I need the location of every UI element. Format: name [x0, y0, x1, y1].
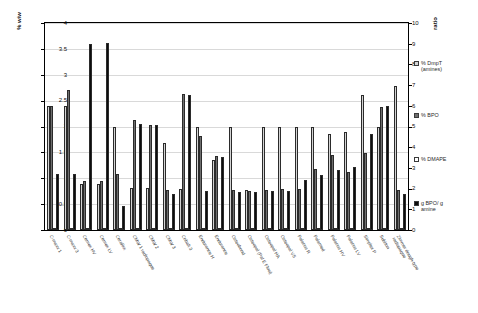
x-tick-label: Cerafixx — [115, 234, 128, 251]
bar-series-area — [45, 23, 408, 230]
bar — [265, 190, 268, 230]
bar — [199, 136, 202, 230]
y-tick-mark-right — [409, 64, 412, 65]
bar-group — [111, 23, 128, 230]
open-square-icon — [414, 157, 419, 162]
y-tick-mark-right — [409, 23, 412, 24]
legend-item[interactable]: % DmpT (amines) — [414, 60, 442, 72]
bar — [133, 120, 136, 230]
x-label-slot: Palacos HV — [326, 232, 343, 313]
bar — [50, 106, 53, 230]
bar — [347, 172, 350, 230]
y-tick-mark-right — [409, 189, 412, 190]
y-tick-mark-left — [41, 101, 44, 102]
bar-group — [359, 23, 376, 230]
bar — [100, 181, 103, 230]
y-tick-mark-right — [409, 44, 412, 45]
x-label-slot: Endurance — [210, 232, 227, 313]
x-label-slot: Cerafixx — [111, 232, 128, 313]
x-tick-label: Palamed — [313, 234, 327, 252]
y-tick-label-right: 7 — [412, 82, 438, 88]
bar — [337, 170, 340, 230]
bar — [205, 191, 208, 230]
x-tick-label: Cobalt 3 — [181, 234, 194, 251]
y-tick-mark-left — [41, 230, 44, 231]
x-label-slot: C-maxx 1 — [45, 232, 62, 313]
bar-group — [210, 23, 227, 230]
y-tick-mark-left — [41, 178, 44, 179]
x-tick-label: Zimmer dough-type radiopaque — [391, 234, 423, 279]
bar — [166, 190, 169, 230]
bar-group — [392, 23, 409, 230]
x-label-slot: CMW 2 — [144, 232, 161, 313]
bar — [215, 156, 218, 230]
x-label-slot: Cemex LV — [95, 232, 112, 313]
bar-group — [128, 23, 145, 230]
bar — [254, 192, 257, 230]
bar — [304, 180, 307, 230]
x-tick-label: CMW 3 — [164, 234, 176, 250]
bar — [56, 174, 59, 230]
bar — [320, 175, 323, 230]
y-tick-mark-left — [41, 49, 44, 50]
bar — [188, 95, 191, 230]
legend-label: % DmpT (amines) — [421, 60, 442, 72]
y-tick-mark-right — [409, 106, 412, 107]
filled-square-icon — [414, 113, 419, 118]
x-label-slot: Palacos LV — [342, 232, 359, 313]
bar — [83, 181, 86, 230]
y-tick-mark-right — [409, 127, 412, 128]
x-label-slot: Endurance H — [194, 232, 211, 313]
bar — [380, 107, 383, 230]
x-label-slot: Simplex P — [359, 232, 376, 313]
bar — [238, 192, 241, 230]
bar — [370, 134, 373, 230]
bar-group — [309, 23, 326, 230]
bar-group — [227, 23, 244, 230]
bar — [139, 124, 142, 230]
bar — [287, 191, 290, 230]
bar — [353, 167, 356, 230]
bar — [149, 125, 152, 230]
bar — [106, 43, 109, 230]
bar — [221, 157, 224, 230]
bar — [271, 191, 274, 230]
y-tick-label-right: 3 — [412, 165, 438, 171]
y-tick-mark-left — [41, 152, 44, 153]
bar-group — [276, 23, 293, 230]
y-tick-mark-left — [41, 127, 44, 128]
x-label-slot: Osteopal (Pal E Flow) — [243, 232, 260, 313]
bar — [67, 90, 70, 230]
bar — [331, 155, 334, 230]
bar — [122, 206, 125, 230]
bar-group — [342, 23, 359, 230]
bar-group — [293, 23, 310, 230]
x-axis-labels: C-maxx 1C-maxx 3Cemex HVCemex LVCerafixx… — [45, 232, 408, 313]
legend-item[interactable]: % BPO — [414, 112, 439, 118]
x-label-slot: Subiton — [375, 232, 392, 313]
x-label-slot: Cobalt 3 — [177, 232, 194, 313]
x-label-slot: Zimmer dough-type radiopaque — [392, 232, 409, 313]
y-tick-label-right: 0 — [412, 227, 438, 233]
bar-group — [243, 23, 260, 230]
x-tick-label: Subiton — [379, 234, 391, 250]
x-label-slot: C-maxx 3 — [62, 232, 79, 313]
bar-group — [78, 23, 95, 230]
legend-label: g BPO/ g amine — [421, 200, 443, 212]
bar-group — [260, 23, 277, 230]
bar — [172, 194, 175, 230]
chart-container: % w/w ratio 00.511.522.533.54 0123456789… — [0, 0, 478, 313]
bar — [182, 94, 185, 230]
legend-item[interactable]: g BPO/ g amine — [414, 200, 443, 212]
legend-item[interactable]: % DMAPE — [414, 156, 446, 162]
y-tick-label-right: 4 — [412, 144, 438, 150]
bar — [116, 174, 119, 230]
filled-square-icon — [414, 201, 419, 206]
bar — [364, 153, 367, 230]
y-tick-mark-left — [41, 23, 44, 24]
bar-group — [161, 23, 178, 230]
bar — [281, 189, 284, 230]
open-square-icon — [414, 61, 419, 66]
y-tick-mark-right — [409, 147, 412, 148]
x-label-slot: Osteopal HA — [260, 232, 277, 313]
